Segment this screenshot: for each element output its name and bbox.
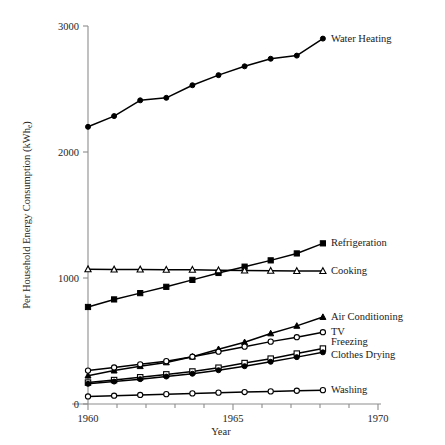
data-point <box>138 392 143 397</box>
data-point <box>163 267 169 273</box>
y-tick-label: 2000 <box>58 147 79 158</box>
data-point <box>112 365 117 370</box>
x-tick-label: 1965 <box>223 413 244 424</box>
series-line <box>88 39 323 127</box>
series-label-freezing: Freezing <box>331 336 368 348</box>
series-water-heating <box>86 36 326 129</box>
series-cooking <box>85 266 326 274</box>
data-point <box>190 354 195 359</box>
data-point <box>320 241 325 246</box>
data-point <box>85 304 90 309</box>
data-point <box>85 368 90 373</box>
data-point <box>320 314 326 320</box>
data-point <box>320 388 325 393</box>
data-point <box>190 371 195 376</box>
data-point <box>268 339 273 344</box>
data-point <box>164 359 169 364</box>
series-washing <box>85 388 325 400</box>
data-point <box>320 268 326 274</box>
series-label-air-conditioning: Air Conditioning <box>331 311 403 323</box>
data-point <box>320 330 325 335</box>
data-point <box>320 36 325 41</box>
chart-plot-area: 0100020003000196019651970YearPer Househo… <box>0 0 445 445</box>
data-point <box>138 291 143 296</box>
data-point <box>242 64 247 69</box>
series-line <box>88 243 323 307</box>
data-point <box>294 268 300 274</box>
data-point <box>111 266 117 272</box>
data-point <box>268 359 273 364</box>
data-point <box>138 377 143 382</box>
data-point <box>190 277 195 282</box>
data-point <box>294 355 299 360</box>
series-label-water-heating: Water Heating <box>331 33 392 45</box>
data-point <box>86 381 91 386</box>
data-point <box>164 95 169 100</box>
data-point <box>190 391 195 396</box>
data-point <box>85 394 90 399</box>
data-point <box>320 350 325 355</box>
data-point <box>294 53 299 58</box>
series-label-refrigeration: Refrigeration <box>331 237 387 249</box>
series-label-clothes-drying: Clothes Drying <box>331 349 395 361</box>
data-point <box>216 390 221 395</box>
y-axis-title: Per Household Energy Consumption (kWhe) <box>21 121 34 309</box>
series-air-conditioning <box>85 314 326 378</box>
data-point <box>164 284 169 289</box>
x-tick-label: 1970 <box>368 413 389 424</box>
series-label-washing: Washing <box>331 384 367 396</box>
y-tick-label: 0 <box>74 399 79 410</box>
data-point <box>294 251 299 256</box>
data-point <box>242 364 247 369</box>
data-point <box>86 124 91 129</box>
y-tick-label: 1000 <box>58 273 79 284</box>
data-point <box>242 389 247 394</box>
data-point <box>85 266 91 272</box>
data-point <box>164 392 169 397</box>
series-freezing <box>85 346 325 385</box>
data-point <box>242 344 247 349</box>
data-point <box>137 266 143 272</box>
data-point <box>268 56 273 61</box>
data-point <box>294 335 299 340</box>
data-point <box>112 393 117 398</box>
series-line <box>88 269 323 271</box>
series-tv <box>85 330 325 374</box>
series-line <box>88 332 323 370</box>
data-point <box>138 362 143 367</box>
data-point <box>112 114 117 119</box>
x-axis-title: Year <box>211 426 231 437</box>
data-point <box>112 379 117 384</box>
data-point <box>268 258 273 263</box>
data-point <box>294 388 299 393</box>
data-point <box>189 267 195 273</box>
data-point <box>215 267 221 273</box>
data-point <box>112 297 117 302</box>
data-point <box>216 368 221 373</box>
chart-figure: 0100020003000196019651970YearPer Househo… <box>0 0 445 445</box>
series-label-cooking: Cooking <box>331 265 367 277</box>
series-refrigeration <box>85 241 325 310</box>
data-point <box>268 267 274 273</box>
y-tick-label: 3000 <box>58 21 79 32</box>
x-tick-label: 1960 <box>78 413 99 424</box>
data-point <box>268 389 273 394</box>
data-point <box>138 98 143 103</box>
data-point <box>190 83 195 88</box>
data-point <box>216 73 221 78</box>
data-point <box>216 349 221 354</box>
data-point <box>164 374 169 379</box>
series-line <box>88 390 323 396</box>
